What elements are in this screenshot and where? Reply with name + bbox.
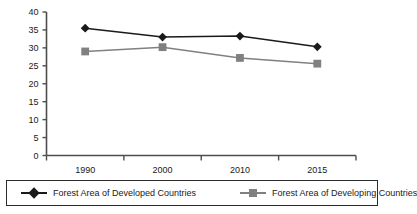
y-tick-label: 25	[28, 61, 38, 71]
chart-legend: Forest Area of Developed Countries Fores…	[6, 180, 378, 206]
legend-swatch-developed	[21, 187, 47, 199]
x-tick-label: 1990	[75, 165, 95, 175]
x-tick-label: 2000	[153, 165, 173, 175]
series-developing	[81, 43, 321, 67]
y-tick-label: 15	[28, 97, 38, 107]
y-axis-tick-labels: 0510152025303540	[28, 7, 38, 161]
square-marker-icon	[249, 189, 257, 197]
legend-item-developed[interactable]: Forest Area of Developed Countries	[21, 181, 196, 205]
plot-svg: 0510152025303540 1990200020102015	[0, 0, 386, 176]
x-tick-label: 2015	[307, 165, 327, 175]
legend-label-developed: Forest Area of Developed Countries	[53, 189, 196, 198]
y-tick-label: 5	[33, 133, 38, 143]
x-axis-tick-labels: 1990200020102015	[75, 165, 327, 175]
data-point-marker	[81, 48, 89, 56]
data-point-marker	[236, 32, 245, 41]
data-point-marker	[159, 43, 167, 51]
legend-swatch-developing	[240, 187, 266, 199]
legend-item-developing[interactable]: Forest Area of Developing Countries	[240, 181, 417, 205]
y-tick-label: 20	[28, 79, 38, 89]
series-developed	[81, 24, 322, 51]
data-point-marker	[158, 33, 167, 42]
y-tick-label: 30	[28, 43, 38, 53]
data-point-marker	[313, 60, 321, 68]
legend-label-developing: Forest Area of Developing Countries	[272, 189, 417, 198]
y-tick-label: 10	[28, 115, 38, 125]
data-point-marker	[313, 42, 322, 51]
plot-area: 0510152025303540 1990200020102015	[0, 0, 386, 176]
data-point-marker	[236, 54, 244, 62]
x-tick-label: 2010	[230, 165, 250, 175]
y-tick-label: 40	[28, 7, 38, 17]
diamond-marker-icon	[28, 187, 39, 198]
data-point-marker	[81, 24, 90, 33]
y-tick-label: 0	[33, 151, 38, 161]
y-tick-label: 35	[28, 25, 38, 35]
